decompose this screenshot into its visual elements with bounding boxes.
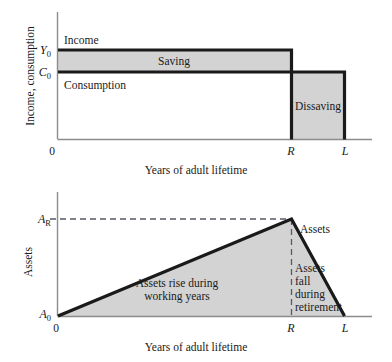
figure-container: Y0 C0 0 R L Income Saving Consumption Di… [0,0,392,362]
x-tick-R-top: R [286,144,295,158]
income-label: Income [64,34,98,46]
assets-fall-line1: Assets [295,262,326,274]
dissaving-label: Dissaving [295,100,341,113]
x-tick-L-top: L [341,144,349,158]
x-tick-origin-top: 0 [49,145,55,157]
consumption-label: Consumption [64,79,126,92]
x-tick-R-bottom: R [286,321,295,335]
y-tick-Y0: Y0 [40,43,51,59]
lifecycle-savings-figure: Y0 C0 0 R L Income Saving Consumption Di… [0,0,392,362]
y-tick-A0: A0 [38,307,51,323]
assets-fall-line4: retirement [295,301,343,313]
x-axis-title-bottom: Years of adult lifetime [145,341,248,353]
y-tick-C0: C0 [39,65,51,81]
y-axis-title-top: Income, consumption [24,26,37,126]
x-axis-title-top: Years of adult lifetime [145,164,248,176]
x-tick-origin-bottom: 0 [53,322,59,334]
assets-fall-line3: during [295,288,325,301]
assets-rise-line1: Assets rise during [136,277,219,290]
assets-panel: AR A0 0 R L Assets Assets rise during wo… [22,192,372,353]
x-tick-L-bottom: L [341,321,349,335]
income-consumption-panel: Y0 C0 0 R L Income Saving Consumption Di… [24,12,372,176]
assets-curve-label: Assets [300,223,331,235]
saving-label: Saving [158,55,190,68]
y-tick-AR: AR [37,212,51,228]
y-axis-title-bottom: Assets [22,246,34,277]
assets-rise-line2: working years [144,290,210,303]
assets-fall-line2: fall [295,275,310,287]
